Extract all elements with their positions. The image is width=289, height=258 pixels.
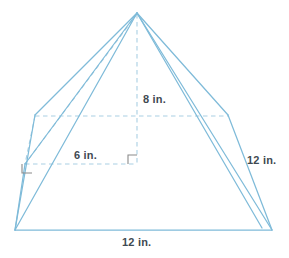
slant-edge-label: 12 in. <box>247 155 276 166</box>
left-shoulder-to-apex-edge <box>35 13 137 115</box>
height-label: 8 in. <box>143 94 166 105</box>
apothem-label: 6 in. <box>74 150 97 161</box>
base-edge-label: 12 in. <box>122 237 151 248</box>
apex-to-base-right-edge <box>137 13 272 230</box>
solid-visible-edges <box>15 13 272 230</box>
pyramid-diagram-svg <box>0 0 289 258</box>
inner-left-front-edge <box>25 13 137 164</box>
dashed-hidden-edges <box>25 14 228 164</box>
right-angle-marker-altitude <box>128 155 137 164</box>
right-lower-base-edge <box>228 115 272 230</box>
pyramid-figure: 8 in. 6 in. 12 in. 12 in. <box>0 0 289 258</box>
inner-right-front-edge <box>137 13 262 228</box>
